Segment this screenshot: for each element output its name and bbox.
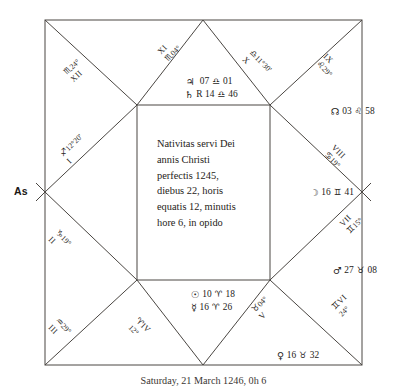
inscription-line: Nativitas servi Dei <box>157 136 283 152</box>
inscription-line: equatis 12, minutis <box>157 199 283 215</box>
planet-jupiter: ♃ 07 ♎ 01 <box>186 76 232 86</box>
spur-right <box>362 183 371 192</box>
center-inscription: Nativitas servi Dei annis Christi perfec… <box>157 136 283 231</box>
planet-sun: ☉ 10 ♈ 18 <box>191 289 235 299</box>
venus-icon: ♀ <box>277 351 284 361</box>
planet-north-node: ☊ 03 ♌ 58 <box>331 106 375 116</box>
planet-venus: ♀ 16 ♉ 32 <box>277 350 319 360</box>
leo-icon: ♌ <box>354 107 363 116</box>
moon-minute: 41 <box>344 188 354 197</box>
saturn-retrograde: R <box>196 90 202 99</box>
aries-icon: ♈ <box>212 303 221 312</box>
mercury-icon: ☿ <box>191 303 197 313</box>
libra-icon: ♎ <box>217 90 226 99</box>
saturn-minute: 46 <box>228 90 238 99</box>
libra-icon: ♎ <box>212 77 221 86</box>
jupiter-icon: ♃ <box>186 77 195 87</box>
planet-saturn: ♄ R 14 ♎ 46 <box>185 89 238 99</box>
planet-mercury: ☿ 16 ♈ 26 <box>191 302 232 312</box>
sun-icon: ☉ <box>191 290 200 300</box>
planet-mars: ♂ 27 ♉ 08 <box>333 265 377 275</box>
gemini-icon: ♊ <box>333 188 342 197</box>
spur-right-lower <box>362 192 371 201</box>
aries-icon: ♈ <box>214 290 223 299</box>
venus-minute: 32 <box>310 351 320 360</box>
jupiter-degree: 07 <box>200 77 210 86</box>
venus-degree: 16 <box>287 351 297 360</box>
inscription-line: hore 6, in opido <box>157 215 283 231</box>
ascendant-label: As <box>14 186 28 197</box>
north-node-minute: 58 <box>365 107 375 116</box>
planet-moon: ☽ 16 ♊ 41 <box>310 187 354 197</box>
jupiter-minute: 01 <box>223 77 233 86</box>
wedge-right-top <box>270 105 362 192</box>
moon-icon: ☽ <box>310 188 319 198</box>
taurus-icon: ♉ <box>356 266 365 275</box>
north-node-degree: 03 <box>342 107 352 116</box>
diagonal-top-left <box>45 20 137 105</box>
spur-left-lower <box>36 192 45 201</box>
moon-degree: 16 <box>321 188 331 197</box>
mercury-minute: 26 <box>223 303 233 312</box>
mars-icon: ♂ <box>333 266 342 276</box>
spur-left <box>36 183 45 192</box>
mars-degree: 27 <box>344 266 354 275</box>
saturn-degree: 14 <box>205 90 215 99</box>
sun-degree: 10 <box>202 290 212 299</box>
taurus-icon: ♉ <box>299 351 308 360</box>
saturn-icon: ♄ <box>185 90 194 100</box>
north-node-icon: ☊ <box>331 107 340 117</box>
horoscope-chart: As Nativitas servi Dei annis Christi per… <box>0 0 407 386</box>
inscription-line: diebus 22, horis <box>157 183 283 199</box>
mercury-degree: 16 <box>200 303 210 312</box>
inscription-line: perfectis 1245, <box>157 168 283 184</box>
sun-minute: 18 <box>225 290 235 299</box>
inscription-line: annis Christi <box>157 152 283 168</box>
chart-caption: Saturday, 21 March 1246, 0h 6 <box>0 375 407 386</box>
mars-minute: 08 <box>367 266 377 275</box>
